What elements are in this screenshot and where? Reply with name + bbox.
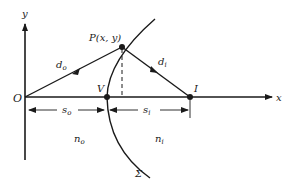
- image-ray-arrow-icon: [150, 66, 158, 73]
- point-v: [104, 94, 110, 100]
- origin-label: O: [13, 92, 22, 105]
- object-medium-label: no: [74, 133, 85, 146]
- surface-label: Σ: [134, 168, 143, 179]
- point-p-label: P(x, y): [88, 32, 121, 43]
- image-ray-label: di: [158, 56, 167, 69]
- x-axis-label: x: [276, 92, 282, 103]
- point-v-label: V: [97, 83, 106, 94]
- point-i-label: I: [193, 83, 199, 94]
- object-distance-label: so: [62, 104, 71, 117]
- point-p: [119, 44, 125, 50]
- image-medium-label: ni: [155, 133, 164, 146]
- optics-diagram: y x O Σ do di P(x, y) V I so si no ni: [0, 0, 287, 192]
- y-axis-label: y: [21, 8, 28, 19]
- point-i: [187, 94, 193, 100]
- image-distance-label: si: [143, 104, 150, 117]
- object-ray-label: do: [56, 59, 67, 72]
